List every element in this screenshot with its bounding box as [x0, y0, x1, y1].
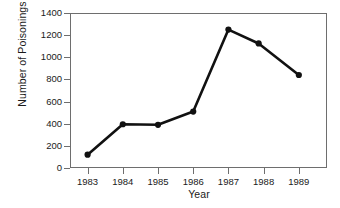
x-tick-1984	[123, 168, 124, 174]
x-tick-label-1988: 1988	[244, 177, 284, 187]
x-tick-label-1986: 1986	[173, 177, 213, 187]
y-tick-label-0: 0	[22, 163, 62, 173]
y-tick-400	[64, 124, 70, 125]
poisonings-line-chart: Number of Poisonings 0200400600800100012…	[0, 0, 340, 208]
x-tick-label-1989: 1989	[279, 177, 319, 187]
y-tick-label-1000: 1000	[22, 52, 62, 62]
x-tick-label-1983: 1983	[68, 177, 108, 187]
x-tick-label-1984: 1984	[103, 177, 143, 187]
y-tick-label-800: 800	[22, 74, 62, 84]
x-tick-1987	[228, 168, 229, 174]
x-axis-title: Year	[70, 188, 328, 200]
x-tick-label-1985: 1985	[138, 177, 178, 187]
x-tick-1986	[193, 168, 194, 174]
y-tick-label-1400: 1400	[22, 8, 62, 18]
y-tick-200	[64, 146, 70, 147]
y-tick-label-400: 400	[22, 119, 62, 129]
x-tick-1985	[158, 168, 159, 174]
y-tick-1200	[64, 35, 70, 36]
y-tick-0	[64, 168, 70, 169]
x-tick-label-1987: 1987	[208, 177, 248, 187]
y-tick-1000	[64, 57, 70, 58]
x-tick-1988	[264, 168, 265, 174]
y-tick-label-1200: 1200	[22, 30, 62, 40]
y-tick-800	[64, 79, 70, 80]
y-tick-label-600: 600	[22, 97, 62, 107]
y-tick-label-200: 200	[22, 141, 62, 151]
x-tick-1989	[299, 168, 300, 174]
plot-area	[70, 13, 327, 168]
x-tick-1983	[88, 168, 89, 174]
y-tick-1400	[64, 13, 70, 14]
y-tick-600	[64, 102, 70, 103]
